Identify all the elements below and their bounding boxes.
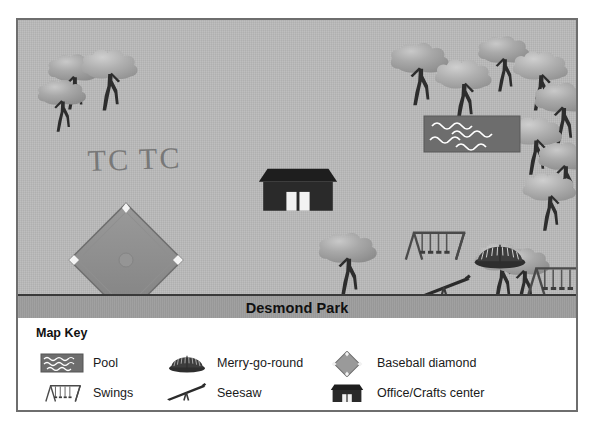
seesaw-icon: [164, 381, 210, 405]
legend-label-baseball-diamond: Baseball diamond: [377, 356, 476, 370]
legend-label-swings: Swings: [93, 386, 133, 400]
office-crafts-center-icon: [324, 381, 370, 405]
map-feature-pool[interactable]: [424, 116, 520, 152]
map-title: Desmond Park: [246, 300, 349, 316]
legend-item-baseball-diamond[interactable]: Baseball diamond: [324, 348, 484, 378]
handwritten-annotation: TC TC: [87, 140, 209, 196]
map-key-heading: Map Key: [36, 326, 87, 340]
map-key-column-3: Baseball diamond Office/Crafts center: [324, 348, 484, 408]
map-key-column-2: Merry-go-round Seesaw: [164, 348, 303, 408]
legend-label-seesaw: Seesaw: [217, 386, 261, 400]
swings-icon: [40, 381, 86, 405]
legend-item-pool[interactable]: Pool: [40, 348, 133, 378]
map-key-column-1: Pool Swings: [40, 348, 133, 408]
tree-cluster-northwest: [38, 50, 138, 132]
legend-label-pool: Pool: [93, 356, 118, 370]
map-feature-swings-east[interactable]: [528, 268, 576, 294]
map-field[interactable]: TC TC: [18, 20, 576, 294]
map-feature-seesaw[interactable]: [418, 275, 471, 294]
merry-go-round-icon: [164, 351, 210, 375]
legend-item-merry-go-round[interactable]: Merry-go-round: [164, 348, 303, 378]
legend-label-merry-go-round: Merry-go-round: [217, 356, 303, 370]
map-key-panel: Map Key Pool: [18, 318, 576, 410]
legend-item-office-crafts-center[interactable]: Office/Crafts center: [324, 378, 484, 408]
pool-icon: [40, 351, 86, 375]
map-feature-baseball-diamond[interactable]: [69, 203, 183, 294]
map-feature-swings-north[interactable]: [406, 233, 466, 260]
map-title-bar: Desmond Park: [18, 294, 576, 320]
map-feature-office-crafts-center[interactable]: [259, 169, 337, 211]
park-map-figure: TC TC Desmond Park Map Key: [16, 18, 578, 412]
legend-label-office-crafts-center: Office/Crafts center: [377, 386, 484, 400]
legend-item-swings[interactable]: Swings: [40, 378, 133, 408]
legend-item-seesaw[interactable]: Seesaw: [164, 378, 303, 408]
baseball-diamond-icon: [324, 351, 370, 375]
